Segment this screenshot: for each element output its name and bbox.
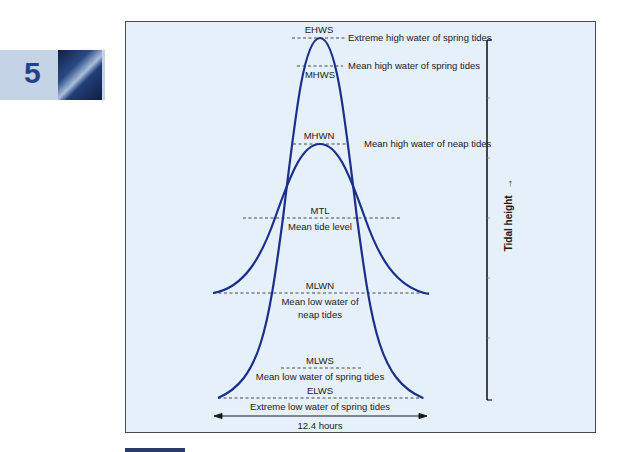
ehws-abbr: EHWS	[305, 24, 334, 35]
tidal-height-text: Tidal height	[503, 195, 514, 251]
tidal-height-label: Tidal height →	[503, 179, 514, 252]
tidal-height-axis	[487, 40, 492, 400]
up-arrow-icon: →	[503, 179, 514, 189]
mtl-abbr: MTL	[311, 205, 330, 216]
elws-abbr: ELWS	[307, 385, 333, 396]
period-arrow	[214, 414, 427, 419]
period-label: 12.4 hours	[298, 420, 343, 431]
mlws-name: Mean low water of spring tides	[256, 371, 384, 382]
mhws-abbr: MHWS	[305, 69, 335, 80]
mhwn-name: Mean high water of neap tides	[364, 138, 491, 149]
mlwn-name-line1: Mean low water of	[281, 296, 358, 307]
neap-tide-curve	[213, 144, 429, 294]
mlwn-abbr: MLWN	[306, 280, 334, 291]
mtl-name: Mean tide level	[288, 221, 352, 232]
mlwn-name-line2: neap tides	[298, 309, 342, 320]
mlws-abbr: MLWS	[306, 355, 334, 366]
ehws-name: Extreme high water of spring tides	[348, 32, 492, 43]
figure-caption-clipped	[125, 448, 185, 452]
mhwn-abbr: MHWN	[304, 130, 335, 141]
mhws-name: Mean high water of spring tides	[348, 60, 480, 71]
elws-name: Extreme low water of spring tides	[250, 401, 390, 412]
